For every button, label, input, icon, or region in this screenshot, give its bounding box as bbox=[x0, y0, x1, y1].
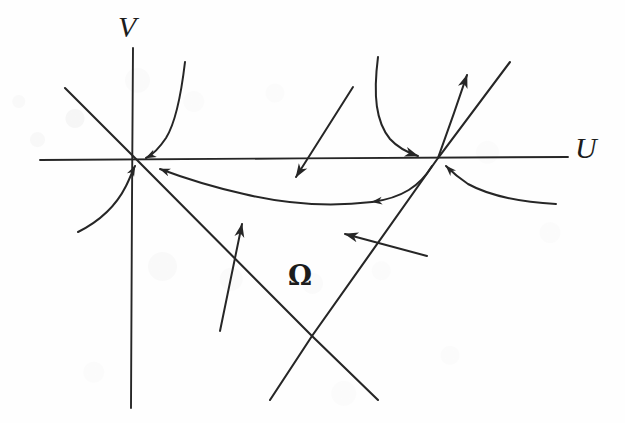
annotation-arrow-up-left bbox=[345, 234, 427, 256]
annotation-arrow-up bbox=[220, 224, 242, 331]
ascending-separatrix-line bbox=[270, 62, 510, 400]
trajectory-lower-right-incoming bbox=[446, 166, 556, 204]
region-label-omega: Ω bbox=[288, 262, 312, 289]
trajectory-heteroclinic-connection bbox=[372, 166, 432, 202]
trajectory-lower-left-incoming bbox=[78, 166, 135, 232]
trajectory-upper-left-branch bbox=[146, 62, 185, 158]
trajectory-heteroclinic-connection-tail bbox=[160, 169, 372, 204]
figure-canvas: V U Ω bbox=[0, 0, 625, 423]
axis-label-v: V bbox=[118, 12, 136, 42]
v-axis-line bbox=[131, 48, 133, 408]
trajectory-upper-middle-branch bbox=[376, 57, 418, 156]
annotation-arrow-down-left bbox=[296, 87, 353, 177]
trajectory-unstable-separatrix-arrow bbox=[438, 75, 467, 158]
descending-separatrix-line bbox=[65, 88, 378, 400]
phase-portrait-figure bbox=[0, 0, 625, 423]
axis-label-u: U bbox=[575, 133, 597, 163]
u-axis-line bbox=[40, 157, 568, 160]
